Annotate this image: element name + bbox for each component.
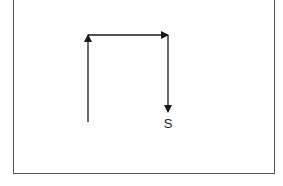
diagram-canvas: S [0, 0, 283, 186]
label-s: S [164, 117, 173, 130]
arrow-path-diagram [0, 0, 283, 186]
